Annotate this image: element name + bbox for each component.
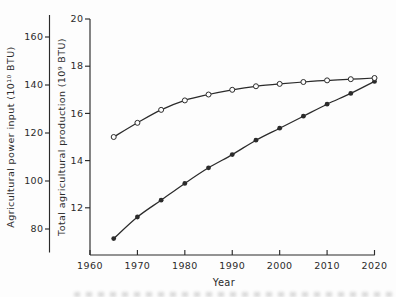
series-agricultural-power-input-curve <box>114 81 375 238</box>
series-agricultural-power-input-marker-filled-circle <box>206 165 211 170</box>
chart: 16014012010080Agricultural power input (… <box>0 0 396 297</box>
production-axis-tick-label: 12 <box>71 202 84 213</box>
series-agricultural-power-input-marker-filled-circle <box>182 181 187 186</box>
series-agricultural-power-input-marker-filled-circle <box>277 126 282 131</box>
power-axis-tick-label: 120 <box>24 127 43 138</box>
series-total-agricultural-production-marker-open-circle <box>182 98 187 103</box>
cropped-caption-smudge <box>74 292 394 297</box>
series-agricultural-power-input-marker-filled-circle <box>230 152 235 157</box>
x-axis-tick-label: 2010 <box>314 260 340 271</box>
chart-figure: 16014012010080Agricultural power input (… <box>0 0 396 297</box>
series-total-agricultural-production-marker-open-circle <box>372 76 377 81</box>
power-axis-label: Agricultural power input (10¹⁰ BTU) <box>5 46 16 227</box>
series-total-agricultural-production-marker-open-circle <box>325 78 330 83</box>
series-total-agricultural-production-marker-open-circle <box>230 87 235 92</box>
production-axis-tick-label: 20 <box>71 13 84 24</box>
series-total-agricultural-production-marker-open-circle <box>253 84 258 89</box>
x-axis-tick-label: 1970 <box>125 260 151 271</box>
series-total-agricultural-production-marker-open-circle <box>301 80 306 85</box>
x-axis-tick-label: 1960 <box>77 260 103 271</box>
series-agricultural-power-input-marker-filled-circle <box>325 102 330 107</box>
series-total-agricultural-production-marker-open-circle <box>277 81 282 86</box>
series-total-agricultural-production-curve <box>114 78 375 137</box>
series-agricultural-power-input-marker-filled-circle <box>135 215 140 220</box>
series-total-agricultural-production-marker-open-circle <box>159 107 164 112</box>
series-agricultural-power-input-marker-filled-circle <box>111 236 116 241</box>
x-axis-tick-label: 1980 <box>172 260 198 271</box>
power-axis-tick-label: 140 <box>24 79 43 90</box>
power-axis-tick-label: 160 <box>24 31 43 42</box>
production-axis-tick-label: 18 <box>71 60 84 71</box>
x-axis-title: Year <box>212 277 236 288</box>
x-axis-tick-label: 2020 <box>362 260 388 271</box>
x-axis-tick-label: 2000 <box>267 260 293 271</box>
series-total-agricultural-production-marker-open-circle <box>206 92 211 97</box>
production-axis-label: Total agricultural production (10⁹ BTU) <box>56 38 67 237</box>
series-total-agricultural-production-marker-open-circle <box>348 77 353 82</box>
production-axis-tick-label: 14 <box>71 155 84 166</box>
series-total-agricultural-production-marker-open-circle <box>135 120 140 125</box>
series-total-agricultural-production-marker-open-circle <box>111 135 116 140</box>
power-axis-tick-label: 100 <box>24 175 43 186</box>
production-axis-tick-label: 16 <box>71 108 84 119</box>
series-agricultural-power-input-marker-filled-circle <box>301 114 306 119</box>
x-axis-tick-label: 1990 <box>219 260 245 271</box>
power-axis-tick-label: 80 <box>31 223 44 234</box>
series-agricultural-power-input-marker-filled-circle <box>159 198 164 203</box>
series-agricultural-power-input-marker-filled-circle <box>254 138 259 143</box>
series-agricultural-power-input-marker-filled-circle <box>348 91 353 96</box>
